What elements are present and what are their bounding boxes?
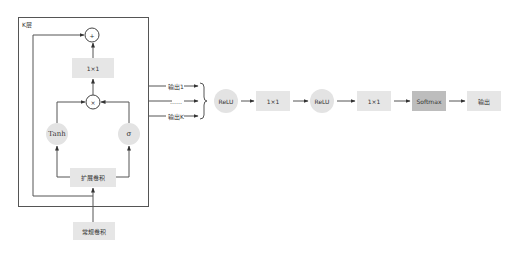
wavenet-diagram: K层 + 1×1 × Tanh σ 扩展卷积 常规卷积 输出1 …… 输出K R…	[0, 0, 513, 253]
arrow-tanh-to-times	[57, 102, 85, 123]
output-label-1: 输出1	[168, 83, 184, 91]
output-brace	[200, 83, 207, 119]
gate-1x1-label: 1×1	[87, 65, 100, 72]
tanh-label: Tanh	[48, 130, 66, 138]
relu-node-1-label: ReLU	[218, 98, 233, 105]
relu-node-2-label: ReLU	[314, 98, 329, 105]
conv-1x1-node-1-label: 1×1	[267, 98, 280, 105]
plus-symbol: +	[89, 32, 94, 39]
output-node-label: 输出	[478, 98, 490, 106]
regular-conv-label: 常规卷积	[82, 228, 106, 236]
output-pipeline: ReLU1×1ReLU1×1Softmax输出	[214, 89, 501, 113]
softmax-node-label: Softmax	[417, 98, 442, 105]
dilated-conv-label: 扩展卷积	[81, 174, 105, 182]
arrow-conv-to-tanh	[57, 146, 70, 177]
k-layer-label: K层	[22, 21, 32, 29]
conv-1x1-node-2-label: 1×1	[368, 98, 381, 105]
times-symbol: ×	[90, 99, 95, 106]
sigma-label: σ	[127, 130, 132, 138]
output-label-k: 输出K	[168, 113, 185, 121]
arrow-conv-to-sigma	[116, 146, 129, 177]
output-label-dots: ……	[170, 98, 182, 105]
arrow-sigma-to-times	[101, 102, 129, 123]
